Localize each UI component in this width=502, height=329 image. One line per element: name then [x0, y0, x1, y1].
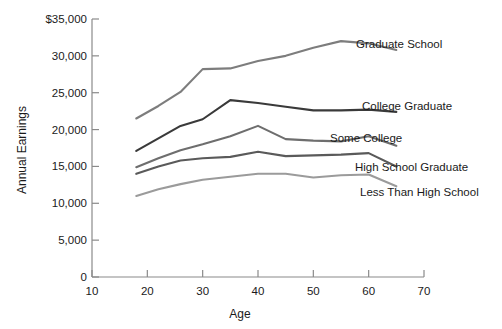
x-tick-label: 40 [252, 285, 265, 297]
x-tick-label: 70 [418, 285, 431, 297]
series-label-some-college: Some College [330, 132, 402, 144]
x-tick-label-group: 10203040506070 [86, 285, 431, 297]
y-tick-label: 0 [81, 271, 87, 283]
y-tick-label: 30,000 [52, 50, 87, 62]
series-label-less-than-high-school: Less Than High School [360, 186, 479, 198]
y-tick-label: 10,000 [52, 197, 87, 209]
series-label-high-school-graduate: High School Graduate [355, 161, 468, 173]
y-axis: 05,00010,00015,00020,00025,00030,000$35,… [45, 13, 99, 283]
y-tick-label-group: 05,00010,00015,00020,00025,00030,000$35,… [45, 13, 87, 283]
x-axis-title: Age [229, 307, 251, 321]
y-tick-group [92, 19, 99, 277]
x-tick-label: 50 [307, 285, 320, 297]
y-tick-label: 20,000 [52, 124, 87, 136]
x-tick-group [92, 270, 424, 277]
series-label-college-graduate: College Graduate [362, 100, 452, 112]
y-axis-title: Annual Earnings [15, 106, 29, 194]
x-tick-label: 10 [86, 285, 99, 297]
y-tick-label: 5,000 [58, 234, 87, 246]
chart-canvas: 05,00010,00015,00020,00025,00030,000$35,… [0, 0, 502, 329]
y-tick-label: 15,000 [52, 160, 87, 172]
y-tick-label: 25,000 [52, 87, 87, 99]
series-label-graduate-school: Graduate School [356, 38, 442, 50]
series-line-graduate-school [136, 41, 396, 118]
x-axis: 10203040506070 [86, 270, 431, 297]
x-tick-label: 20 [141, 285, 154, 297]
x-tick-label: 60 [362, 285, 375, 297]
series-line-less-than-high-school [136, 174, 396, 196]
x-tick-label: 30 [196, 285, 209, 297]
y-tick-label: $35,000 [45, 13, 87, 25]
earnings-by-age-chart: 05,00010,00015,00020,00025,00030,000$35,… [0, 0, 502, 329]
